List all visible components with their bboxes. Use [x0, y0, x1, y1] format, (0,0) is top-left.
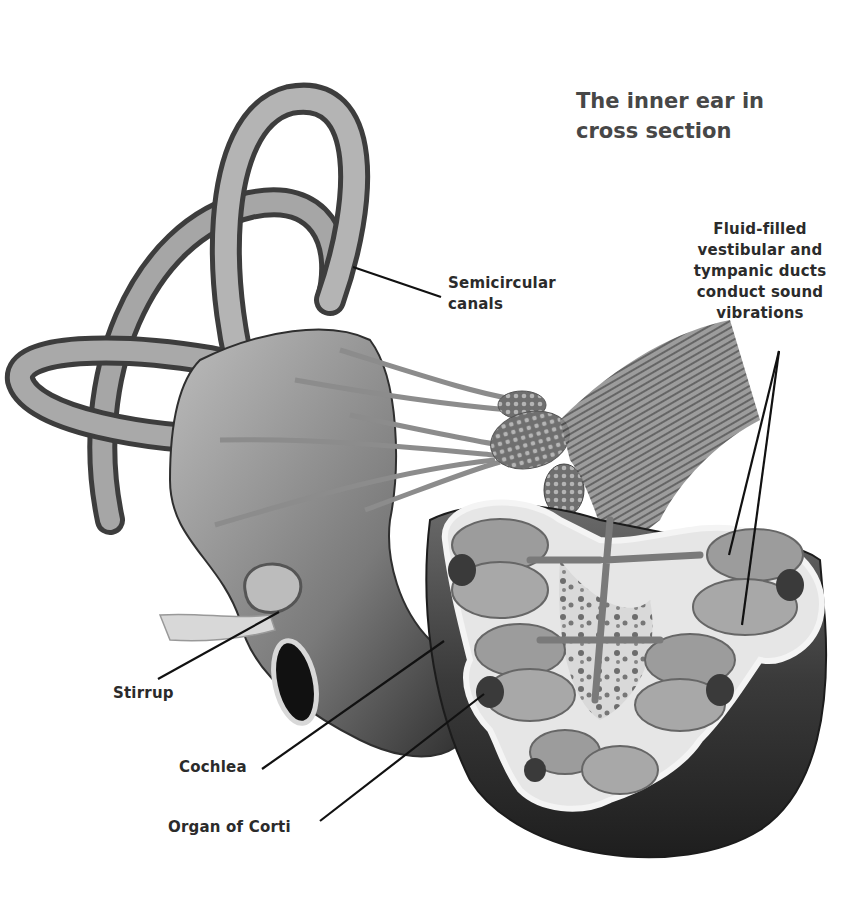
label-cochlea: Cochlea	[179, 757, 247, 778]
inner-ear-diagram: The inner ear in cross section Semicircu…	[0, 0, 862, 923]
leader-semicircular	[353, 267, 441, 297]
label-stirrup: Stirrup	[113, 683, 174, 704]
diagram-title: The inner ear in cross section	[576, 86, 764, 146]
label-fluid-filled-ducts: Fluid-filled vestibular and tympanic duc…	[660, 219, 860, 324]
vestibule	[170, 330, 471, 757]
label-semicircular-canals: Semicircular canals	[448, 273, 556, 315]
label-organ-of-corti: Organ of Corti	[168, 817, 291, 838]
